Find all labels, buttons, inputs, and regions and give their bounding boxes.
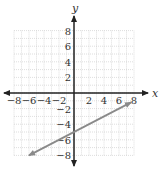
x-tick-label: −6 (22, 95, 37, 106)
y-tick-label: 4 (65, 57, 71, 68)
x-tick-label: 2 (86, 95, 92, 106)
x-tick-label: −8 (7, 95, 22, 106)
y-tick-label: −2 (56, 104, 71, 115)
y-axis-label: y (71, 2, 79, 15)
y-tick-label: −4 (56, 119, 71, 130)
x-axis-label: x (152, 87, 159, 100)
y-tick-label: 6 (65, 41, 71, 52)
y-tick-label: −8 (56, 150, 71, 161)
y-tick-label: 8 (65, 26, 71, 37)
x-tick-label: 6 (116, 95, 122, 106)
x-tick-label: 8 (131, 95, 137, 106)
coordinate-plane: −8−6−4−224688642−2−4−6−8 x y (0, 0, 160, 171)
x-tick-label: 4 (101, 95, 107, 106)
y-tick-label: 2 (65, 72, 71, 83)
x-tick-label: −4 (37, 95, 52, 106)
